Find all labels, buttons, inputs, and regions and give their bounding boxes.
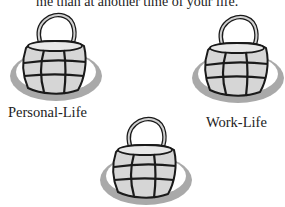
personal-life-basket-icon <box>4 8 104 104</box>
work-life-basket-icon <box>186 10 285 106</box>
work-life-label: Work-Life <box>206 114 267 131</box>
personal-life-label: Personal-Life <box>8 104 87 121</box>
third-basket-icon <box>94 112 194 207</box>
